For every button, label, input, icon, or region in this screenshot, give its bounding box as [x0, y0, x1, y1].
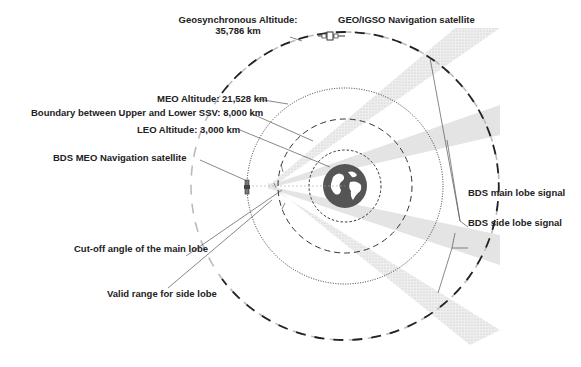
meo-altitude-label: MEO Altitude: 21,528 km	[157, 93, 268, 104]
geo-altitude-label: Geosynchronous Altitude: 35,786 km	[178, 14, 298, 36]
valid-side-lobe-label: Valid range for side lobe	[107, 288, 217, 299]
meo-satellite-label: BDS MEO Navigation satellite	[53, 152, 187, 163]
leo-altitude-label: LEO Altitude: 3,000 km	[137, 124, 240, 135]
geo-altitude-value: 35,786 km	[178, 25, 298, 36]
diagram-canvas	[0, 0, 581, 367]
side-lobe-lower	[268, 186, 500, 265]
cutoff-tick-lower	[282, 203, 285, 209]
ssv-boundary-label: Boundary between Upper and Lower SSV: 8,…	[31, 107, 263, 118]
main-lobe-label: BDS main lobe signal	[468, 187, 565, 198]
side-lobe-label: BDS side lobe signal	[468, 217, 562, 228]
cutoff-tick-upper	[281, 164, 283, 172]
meo-satellite-icon	[244, 180, 250, 194]
geo-satellite-label: GEO/IGSO Navigation satellite	[338, 14, 475, 25]
main-lobe-upper	[268, 28, 500, 190]
geo-altitude-text: Geosynchronous Altitude:	[178, 14, 298, 25]
cutoff-angle-label: Cut-off angle of the main lobe	[74, 243, 208, 254]
main-lobe-lower	[268, 182, 500, 345]
side-lobe-upper	[268, 105, 500, 188]
